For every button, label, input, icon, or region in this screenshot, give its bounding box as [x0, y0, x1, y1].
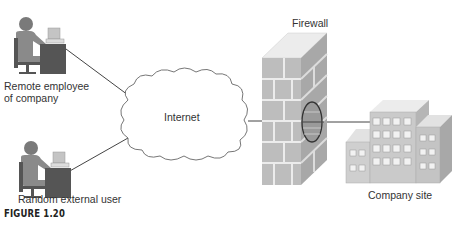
- firewall-label: Firewall: [292, 17, 328, 29]
- person-at-computer-icon: [14, 17, 66, 74]
- figure-caption: FIGURE 1.20: [4, 208, 65, 219]
- company-site-label: Company site: [368, 189, 432, 201]
- internet-label: Internet: [164, 111, 200, 123]
- remote-employee-label: Remote employee of company: [4, 80, 89, 104]
- person-at-computer-icon: [19, 141, 71, 198]
- remote-employee-label-line1: Remote employee: [4, 80, 89, 92]
- brick-wall-icon: [262, 33, 327, 185]
- external-user-label: Random external user: [18, 193, 121, 205]
- edge-external-internet: [68, 138, 128, 172]
- remote-employee-label-line2: of company: [4, 92, 89, 104]
- office-buildings-icon: [346, 100, 452, 183]
